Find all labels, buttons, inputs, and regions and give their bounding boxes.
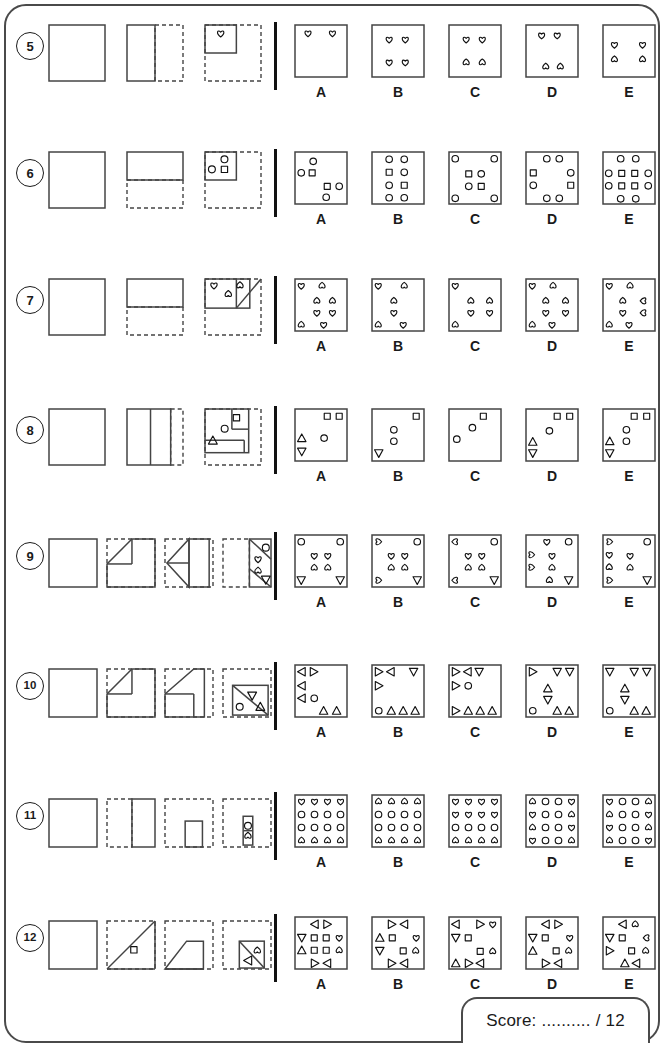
option-D-q11[interactable]: [525, 794, 579, 890]
heart-down-glyph: [375, 837, 381, 843]
square-glyph: [619, 935, 625, 941]
fold-sequence-wrap: [48, 24, 282, 104]
option-figure: [602, 534, 656, 588]
option-label-D: D: [525, 594, 579, 610]
option-D-q7[interactable]: [525, 278, 579, 374]
option-C-q5[interactable]: [448, 24, 502, 120]
option-B-q10[interactable]: [371, 664, 425, 760]
option-A-q10[interactable]: [294, 664, 348, 760]
option-C-q7[interactable]: [448, 278, 502, 374]
heart-down-glyph: [255, 567, 261, 573]
heart-up-glyph: [324, 799, 330, 805]
circle-glyph: [221, 156, 228, 163]
heart-down-glyph: [225, 291, 231, 297]
triangle-up-glyph: [553, 707, 561, 715]
triangle-left-glyph: [554, 959, 562, 967]
option-B-q12[interactable]: [371, 916, 425, 1012]
square-glyph: [644, 413, 650, 419]
option-A-q7[interactable]: [294, 278, 348, 374]
fold-sequence-wrap: [48, 278, 282, 358]
option-figure: [294, 408, 348, 462]
option-B-q8[interactable]: [371, 408, 425, 504]
option-label-C: C: [448, 211, 502, 227]
option-A-q5[interactable]: [294, 24, 348, 120]
triangle-down-glyph: [475, 668, 483, 676]
heart-down-glyph: [529, 321, 535, 327]
triangle-up-glyph: [565, 707, 573, 715]
option-figure: [371, 916, 425, 970]
option-label-A: A: [294, 468, 348, 484]
square-glyph: [336, 413, 342, 419]
square-glyph: [553, 948, 559, 954]
option-D-q6[interactable]: [525, 151, 579, 247]
option-B-q7[interactable]: [371, 278, 425, 374]
option-label-D: D: [525, 976, 579, 992]
circle-glyph: [565, 538, 572, 545]
heart-down-glyph: [414, 837, 420, 843]
option-E-q5[interactable]: [602, 24, 656, 120]
heart-up-glyph: [627, 554, 633, 560]
option-A-q11[interactable]: [294, 794, 348, 890]
heart-up-glyph: [463, 37, 469, 43]
option-A-q12[interactable]: [294, 916, 348, 1012]
triangle-down-glyph: [298, 934, 306, 942]
square-glyph: [311, 947, 317, 953]
circle-glyph: [619, 824, 626, 831]
triangle-left-glyph: [476, 959, 484, 967]
heart-down-glyph: [606, 321, 612, 327]
triangle-up-glyph: [452, 959, 460, 967]
option-label-D: D: [525, 211, 579, 227]
option-C-q9[interactable]: [448, 534, 502, 630]
triangle-left-glyph: [632, 959, 640, 967]
square-glyph: [465, 935, 471, 941]
option-D-q10[interactable]: [525, 664, 579, 760]
option-E-q7[interactable]: [602, 278, 656, 374]
circle-glyph: [606, 707, 613, 714]
score-blank[interactable]: ..........: [541, 1011, 590, 1031]
triangle-right-glyph: [465, 959, 473, 967]
option-C-q11[interactable]: [448, 794, 502, 890]
circle-glyph: [632, 824, 639, 831]
option-A-q8[interactable]: [294, 408, 348, 504]
option-A-q6[interactable]: [294, 151, 348, 247]
heart-down-glyph: [549, 564, 555, 570]
option-E-q10[interactable]: [602, 664, 656, 760]
option-figure: [448, 408, 502, 462]
option-B-q5[interactable]: [371, 24, 425, 120]
option-E-q6[interactable]: [602, 151, 656, 247]
triangle-right-glyph: [452, 682, 460, 690]
fold-sequence-wrap: [48, 151, 282, 231]
option-C-q10[interactable]: [448, 664, 502, 760]
option-E-q11[interactable]: [602, 794, 656, 890]
option-B-q9[interactable]: [371, 534, 425, 630]
option-D-q9[interactable]: [525, 534, 579, 630]
heart-up-glyph: [549, 554, 555, 560]
option-D-q5[interactable]: [525, 24, 579, 120]
heart-up-glyph: [549, 322, 555, 328]
option-B-q11[interactable]: [371, 794, 425, 890]
triangle-left-glyph: [387, 668, 395, 676]
circle-glyph: [454, 436, 461, 443]
option-C-q8[interactable]: [448, 408, 502, 504]
triangle-right-glyph: [529, 668, 537, 676]
fold-sequence-6: [48, 151, 282, 215]
triangle-left-glyph: [298, 694, 306, 702]
square-glyph: [400, 948, 406, 954]
heart-down-glyph: [479, 564, 485, 570]
heart-up-glyph: [543, 311, 549, 317]
option-E-q9[interactable]: [602, 534, 656, 630]
triangle-left-glyph: [464, 668, 472, 676]
fold-stage-1: [49, 409, 105, 465]
circle-glyph: [311, 811, 318, 818]
option-C-q6[interactable]: [448, 151, 502, 247]
circle-glyph: [556, 195, 563, 202]
option-D-q8[interactable]: [525, 408, 579, 504]
option-B-q6[interactable]: [371, 151, 425, 247]
circle-glyph: [555, 837, 562, 844]
option-label-C: C: [448, 468, 502, 484]
fold-stage-2: [107, 799, 155, 847]
option-label-A: A: [294, 854, 348, 870]
option-A-q9[interactable]: [294, 534, 348, 630]
option-E-q8[interactable]: [602, 408, 656, 504]
heart-down-glyph: [452, 837, 458, 843]
